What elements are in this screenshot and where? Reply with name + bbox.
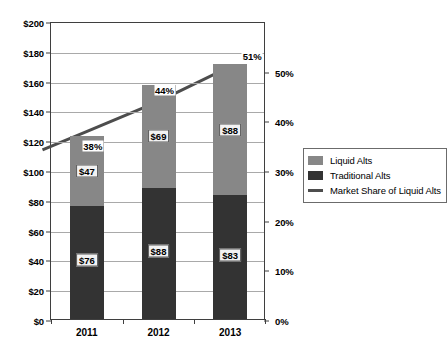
x-axis-tick-label: 2013	[219, 327, 241, 338]
y-axis-left-tick-label: $60	[28, 226, 44, 237]
y-axis-left-tickmark	[46, 291, 51, 292]
x-axis-tick-label: 2012	[147, 327, 169, 338]
y-axis-right-tick-label: 0%	[275, 316, 289, 327]
y-axis-right-tickmark	[264, 72, 269, 73]
line-point-label: 51%	[242, 50, 263, 61]
y-axis-left-tickmark	[46, 23, 51, 24]
chart-legend: Liquid Alts Traditional Alts Market Shar…	[303, 148, 447, 203]
y-axis-left-tick-label: $120	[23, 137, 44, 148]
bar-value-label-liquid-alts: $69	[148, 130, 170, 143]
y-axis-left-tickmark	[46, 201, 51, 202]
y-axis-left-tickmark	[46, 82, 51, 83]
bar-value-label-traditional-alts: $88	[148, 245, 170, 258]
y-axis-right-tickmark	[264, 221, 269, 222]
y-axis-left-tick-label: $40	[28, 256, 44, 267]
bar-value-label-traditional-alts: $76	[76, 254, 98, 267]
y-axis-left-tick-label: $140	[23, 107, 44, 118]
y-axis-left-tickmark	[46, 231, 51, 232]
legend-label-liquid-alts: Liquid Alts	[330, 155, 372, 166]
bar-value-label-liquid-alts: $88	[219, 123, 241, 136]
bar-value-label-liquid-alts: $47	[76, 164, 98, 177]
y-axis-left-tickmark	[46, 52, 51, 53]
legend-item-traditional-alts: Traditional Alts	[308, 168, 441, 183]
line-point-label: 38%	[82, 141, 103, 152]
y-axis-right-tick-label: 20%	[275, 216, 294, 227]
y-axis-left-tick-label: $100	[23, 167, 44, 178]
x-axis-tickmark	[51, 319, 52, 324]
y-axis-left-tickmark	[46, 142, 51, 143]
y-axis-left-tick-label: $0	[34, 316, 44, 327]
y-axis-right-tickmark	[264, 271, 269, 272]
y-axis-left-tickmark	[46, 261, 51, 262]
bar-column: $88$69	[142, 21, 176, 319]
y-axis-right-tick-label: 10%	[275, 266, 294, 277]
legend-label-market-share: Market Share of Liquid Alts	[330, 185, 441, 196]
legend-item-liquid-alts: Liquid Alts	[308, 153, 441, 168]
y-axis-right-tickmark	[264, 172, 269, 173]
x-axis-tickmark	[265, 319, 266, 324]
bar-value-label-traditional-alts: $83	[219, 249, 241, 262]
y-axis-right-tick-label: 50%	[275, 67, 294, 78]
legend-swatch-liquid-alts	[308, 156, 323, 165]
bar-column: $76$47	[70, 21, 104, 319]
x-axis-tickmark	[194, 319, 195, 324]
x-axis-tick-label: 2011	[76, 327, 98, 338]
legend-label-traditional-alts: Traditional Alts	[330, 170, 390, 181]
y-axis-right-tick-label: 30%	[275, 167, 294, 178]
legend-item-market-share: Market Share of Liquid Alts	[308, 183, 441, 198]
y-axis-left-tick-label: $20	[28, 286, 44, 297]
y-axis-left-tickmark	[46, 112, 51, 113]
y-axis-left-tick-label: $200	[23, 18, 44, 29]
y-axis-left-tick-label: $160	[23, 77, 44, 88]
y-axis-left-tickmark	[46, 172, 51, 173]
y-axis-left-tick-label: $180	[23, 47, 44, 58]
x-axis-tickmark	[123, 319, 124, 324]
y-axis-left-tick-label: $80	[28, 196, 44, 207]
y-axis-right-tickmark	[264, 122, 269, 123]
line-point-label: 44%	[154, 85, 175, 96]
plot-area: $0$20$40$60$80$100$120$140$160$180$2000%…	[50, 22, 265, 320]
y-axis-right-tick-label: 40%	[275, 117, 294, 128]
legend-swatch-market-share	[308, 189, 323, 192]
legend-swatch-traditional-alts	[308, 171, 323, 180]
bar-column: $83$88	[213, 21, 247, 319]
